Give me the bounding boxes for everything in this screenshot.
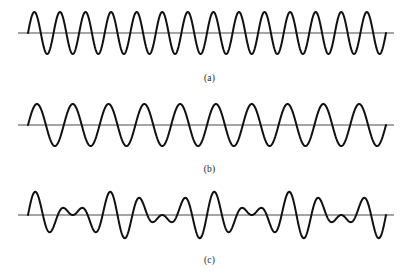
panel-b-plot <box>0 92 419 158</box>
panel-a-plot <box>0 0 419 66</box>
panel-a: (a) <box>0 0 419 92</box>
panel-b: (b) <box>0 92 419 182</box>
panel-a-caption: (a) <box>0 74 419 84</box>
panel-b-caption: (b) <box>0 165 419 175</box>
panel-c-plot <box>0 182 419 248</box>
beats-figure: (a) (b) (c) <box>0 0 419 276</box>
panel-c: (c) <box>0 182 419 276</box>
panel-c-caption: (c) <box>0 256 419 266</box>
panel-b-waveform <box>28 104 386 146</box>
